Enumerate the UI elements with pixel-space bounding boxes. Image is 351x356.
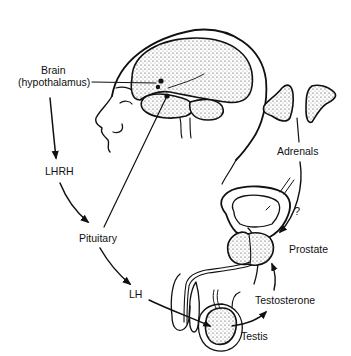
brain-cerebrum: [131, 38, 252, 102]
arrow-brain-to-lhrh: [50, 98, 56, 158]
label-question-mark: ?: [294, 205, 300, 217]
pituitary-dot: [164, 93, 169, 98]
arrow-lh-to-testis: [149, 300, 210, 326]
label-pituitary: Pituitary: [79, 232, 117, 244]
arrow-pituitary-to-lh: [100, 248, 130, 284]
label-brain: Brain: [41, 64, 66, 76]
label-prostate: Prostate: [289, 243, 328, 255]
label-hypothalamus: (hypothalamus): [18, 76, 90, 88]
adrenal-left: [263, 85, 293, 121]
pituitary-pointer-line: [104, 98, 166, 227]
adrenals-pointer-line: [297, 118, 299, 142]
label-lh: LH: [129, 288, 142, 300]
arrow-adrenals-to-prostate: [280, 162, 301, 232]
adrenal-right: [306, 85, 336, 122]
bladder-inner: [232, 195, 279, 227]
cerebellum: [190, 99, 224, 120]
label-adrenals: Adrenals: [277, 145, 318, 157]
bladder-outer: [221, 186, 290, 238]
label-testosterone: Testosterone: [255, 294, 315, 306]
arrow-lhrh-to-pituitary: [60, 183, 88, 222]
arrow-testosterone-to-prostate: [272, 264, 275, 290]
label-lhrh: LHRH: [45, 165, 74, 177]
hypothalamus-dot: [158, 78, 163, 83]
label-testis: Testis: [241, 330, 268, 342]
